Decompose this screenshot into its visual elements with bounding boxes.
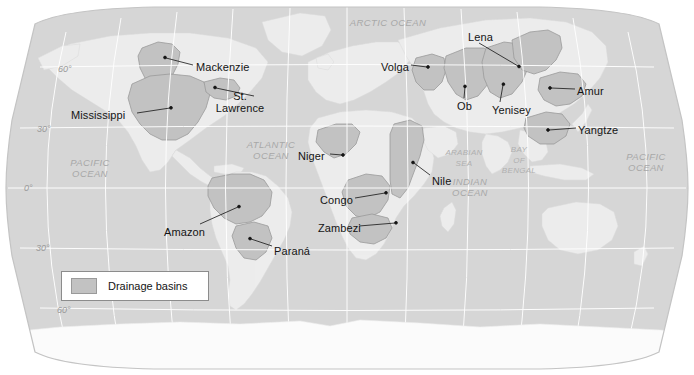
- legend-label-drainage-basins: Drainage basins: [108, 280, 188, 292]
- text-line: St.: [216, 91, 265, 103]
- ocean-label-bay-of-bengal: BAYOFBENGAL: [502, 145, 536, 177]
- text-line: BAY: [502, 145, 536, 156]
- text-line: Lawrence: [216, 103, 265, 115]
- river-label-yangtze: Yangtze: [578, 125, 618, 137]
- river-label-parana: Paraná: [274, 246, 310, 258]
- ocean-label-atlantic-ocean: ATLANTICOCEAN: [247, 140, 295, 161]
- river-label-zambezi: Zambezi: [318, 223, 361, 235]
- river-label-amazon: Amazon: [164, 227, 205, 239]
- river-label-amur: Amur: [577, 86, 604, 98]
- lat-0: 0°: [24, 183, 33, 193]
- text-line: Mackenzie: [196, 62, 249, 74]
- ocean-layer: [0, 0, 694, 375]
- lat-60-north: 60°: [58, 64, 72, 74]
- ocean-label-pacific-ocean-west: PACIFICOCEAN: [70, 158, 110, 179]
- text-line: PACIFIC: [626, 152, 666, 163]
- text-line: SEA: [445, 159, 482, 170]
- ocean-label-arabian-sea: ARABIANSEA: [445, 148, 482, 169]
- river-label-volga: Volga: [381, 62, 409, 74]
- ocean-label-indian-ocean: INDIANOCEAN: [452, 177, 488, 198]
- text-line: Amur: [577, 86, 604, 98]
- river-label-ob: Ob: [457, 101, 472, 113]
- lat-30-north: 30°: [37, 124, 51, 134]
- text-line: Lena: [468, 32, 493, 44]
- legend-swatch-drainage-basins: [71, 278, 97, 294]
- river-label-nile: Nile: [432, 176, 451, 188]
- text-line: Yenisey: [492, 105, 531, 117]
- river-label-st-lawrence: St.Lawrence: [216, 91, 265, 114]
- lat-60-south: 60°: [57, 305, 71, 315]
- river-label-mackenzie: Mackenzie: [196, 62, 249, 74]
- ocean-label-pacific-ocean-east: PACIFICOCEAN: [626, 152, 666, 173]
- text-line: ARCTIC OCEAN: [350, 18, 427, 29]
- text-line: ATLANTIC: [247, 140, 295, 151]
- text-line: Nile: [432, 176, 451, 188]
- text-line: Mississippi: [71, 110, 125, 122]
- text-line: Niger: [298, 151, 325, 163]
- text-line: Amazon: [164, 227, 205, 239]
- river-label-congo: Congo: [320, 195, 353, 207]
- river-label-lena: Lena: [468, 32, 493, 44]
- text-line: BENGAL: [502, 166, 536, 177]
- lat-30-south: 30°: [36, 243, 50, 253]
- text-line: Zambezi: [318, 223, 361, 235]
- map-canvas: [0, 0, 694, 375]
- text-line: INDIAN: [452, 177, 488, 188]
- river-label-mississippi: Mississippi: [71, 110, 125, 122]
- text-line: OCEAN: [626, 163, 666, 174]
- text-line: ARABIAN: [445, 148, 482, 159]
- text-line: OF: [502, 156, 536, 167]
- text-line: Volga: [381, 62, 409, 74]
- text-line: Paraná: [274, 246, 310, 258]
- river-label-yenisey: Yenisey: [492, 105, 531, 117]
- text-line: Ob: [457, 101, 472, 113]
- river-label-niger: Niger: [298, 151, 325, 163]
- text-line: OCEAN: [452, 188, 488, 199]
- legend-box: Drainage basins: [61, 271, 209, 301]
- world-drainage-basin-map: Drainage basins MackenzieSt.LawrenceMiss…: [0, 0, 694, 375]
- text-line: Yangtze: [578, 125, 618, 137]
- text-line: PACIFIC: [70, 158, 110, 169]
- text-line: Congo: [320, 195, 353, 207]
- text-line: OCEAN: [70, 169, 110, 180]
- ocean-label-arctic-ocean: ARCTIC OCEAN: [350, 18, 427, 29]
- text-line: OCEAN: [247, 151, 295, 162]
